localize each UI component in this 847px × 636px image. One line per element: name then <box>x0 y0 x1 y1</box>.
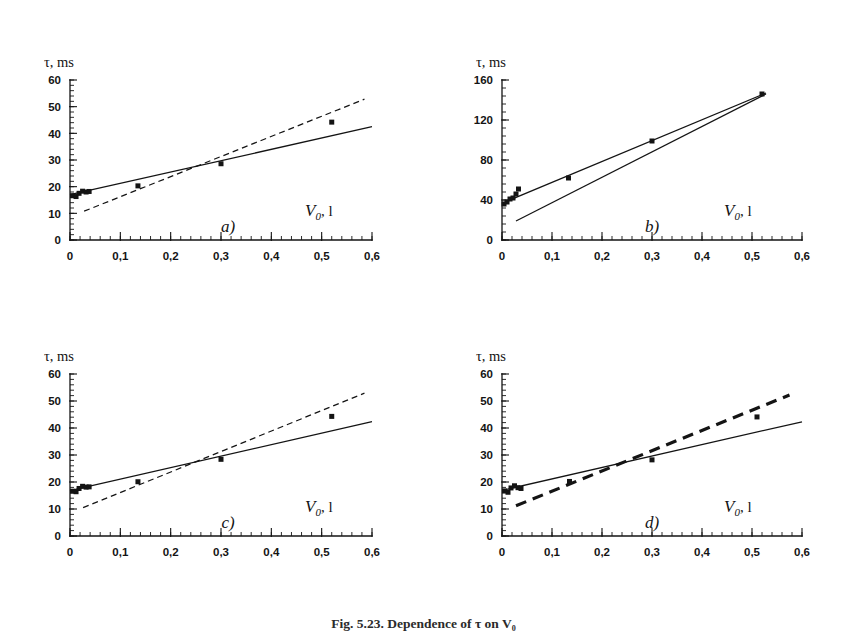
panel-a-y-tick-label: 20 <box>48 181 61 193</box>
panel-a-data-point <box>87 189 92 194</box>
panel-d-y-tick-label: 40 <box>480 422 493 434</box>
panel-b-data-point <box>566 176 571 181</box>
panel-b-data-point <box>516 187 521 192</box>
panel-a-x-tick-label: 0,1 <box>112 250 129 262</box>
panel-c-x-axis-label: V0, l <box>305 497 333 518</box>
panel-b-fit-line <box>505 93 766 202</box>
panel-b-x-tick-label: 0,4 <box>694 250 711 262</box>
panel-c-x-tick-label: 0,2 <box>163 546 179 558</box>
panel-b-container: τ, ms0408012016000,10,20,30,40,50,6b)V0,… <box>424 8 847 298</box>
panel-a-x-tick-label: 0,4 <box>263 250 280 262</box>
panel-c-container: τ, ms010203040506000,10,20,30,40,50,6c)V… <box>0 298 424 598</box>
panel-d-y-tick-label: 20 <box>480 476 493 488</box>
panel-b-y-tick-label: 0 <box>487 234 493 246</box>
panel-c-data-point <box>87 484 92 489</box>
panel-d-container: τ, ms010203040506000,10,20,30,40,50,6d)V… <box>424 298 847 598</box>
panel-d-x-tick-label: 0,5 <box>744 546 761 558</box>
panel-d-y-tick-label: 60 <box>480 368 493 380</box>
panel-c-letter: c) <box>221 513 235 532</box>
panel-c-y-tick-label: 30 <box>48 449 61 461</box>
panel-b-data-point <box>760 92 765 97</box>
panel-d-y-tick-label: 50 <box>480 395 493 407</box>
panel-b-axes <box>502 80 802 240</box>
panel-c-y-tick-label: 10 <box>48 503 61 515</box>
figure-root: τ, ms010203040506000,10,20,30,40,50,6a)V… <box>0 0 847 636</box>
panel-a-x-tick-label: 0,5 <box>314 250 331 262</box>
panel-d-y-tick-label: 10 <box>480 503 493 515</box>
panel-d-fit-line <box>502 422 802 491</box>
panel-c-x-tick-label: 0,3 <box>213 546 229 558</box>
panel-d-y-tick-label: 30 <box>480 449 493 461</box>
panel-a-x-tick-label: 0,2 <box>163 250 179 262</box>
panel-a-fit-line <box>84 99 364 211</box>
panel-d-x-tick-label: 0 <box>499 546 505 558</box>
panel-c-y-tick-label: 60 <box>48 368 61 380</box>
panel-d-x-tick-label: 0,4 <box>694 546 711 558</box>
panel-b-data-point <box>514 192 519 197</box>
panel-d-data-point <box>567 479 572 484</box>
figure-caption: Fig. 5.23. Dependence of τ on V₀ <box>0 616 847 632</box>
panel-c-data-point <box>219 457 224 462</box>
panel-d-plot: τ, ms010203040506000,10,20,30,40,50,6d)V… <box>424 298 847 598</box>
panel-b-y-tick-label: 80 <box>480 154 493 166</box>
panel-d-x-tick-label: 0,3 <box>644 546 660 558</box>
panel-c-fit-line <box>83 393 364 507</box>
panel-b-x-tick-label: 0,2 <box>594 250 610 262</box>
panel-a-y-tick-label: 40 <box>48 128 61 140</box>
panel-d-axes <box>502 374 802 536</box>
panel-c-data-point <box>329 414 334 419</box>
panel-c-x-tick-label: 0,5 <box>314 546 331 558</box>
panel-c-y-tick-label: 40 <box>48 422 61 434</box>
panel-a-data-point <box>329 120 334 125</box>
panel-d-data-point <box>755 414 760 419</box>
panel-a-x-tick-label: 0,6 <box>364 250 380 262</box>
panel-a-y-tick-label: 10 <box>48 208 61 220</box>
panel-b-x-tick-label: 0 <box>499 250 505 262</box>
panel-a-y-tick-label: 50 <box>48 101 61 113</box>
panel-c-plot: τ, ms010203040506000,10,20,30,40,50,6c)V… <box>0 298 424 598</box>
panel-b-x-tick-label: 0,5 <box>744 250 761 262</box>
panel-c-y-tick-label: 0 <box>55 530 61 542</box>
panel-a-letter: a) <box>221 217 236 236</box>
panel-d-data-point <box>506 490 511 495</box>
panel-a-container: τ, ms010203040506000,10,20,30,40,50,6a)V… <box>0 8 424 298</box>
panel-a-y-axis-label: τ, ms <box>44 54 74 70</box>
panel-b-y-tick-label: 120 <box>474 114 493 126</box>
panel-d-y-tick-label: 0 <box>487 530 493 542</box>
panel-d-fit-line <box>516 395 790 506</box>
panel-c-x-tick-label: 0,1 <box>112 546 129 558</box>
panel-b-x-tick-label: 0,1 <box>544 250 561 262</box>
panel-a-fit-line <box>70 127 372 195</box>
panel-d-x-axis-label: V0, l <box>724 497 752 518</box>
panel-c-y-axis-label: τ, ms <box>44 348 74 364</box>
panel-b-letter: b) <box>645 217 660 236</box>
panel-a-plot: τ, ms010203040506000,10,20,30,40,50,6a)V… <box>0 8 424 298</box>
panel-a-x-tick-label: 0 <box>67 250 73 262</box>
panel-a-y-tick-label: 30 <box>48 154 61 166</box>
panel-a-data-point <box>135 183 140 188</box>
panel-c-y-tick-label: 20 <box>48 476 61 488</box>
panel-c-x-tick-label: 0 <box>67 546 73 558</box>
panel-a-y-tick-label: 0 <box>55 234 61 246</box>
panel-a-data-point <box>219 161 224 166</box>
panel-c-x-tick-label: 0,4 <box>263 546 280 558</box>
panel-c-data-point <box>135 479 140 484</box>
panel-b-data-point <box>650 139 655 144</box>
panel-d-x-tick-label: 0,1 <box>544 546 561 558</box>
panel-d-letter: d) <box>645 513 660 532</box>
panel-a-x-tick-label: 0,3 <box>213 250 229 262</box>
panel-b-x-tick-label: 0,6 <box>794 250 810 262</box>
panel-b-x-tick-label: 0,3 <box>644 250 660 262</box>
panel-d-x-tick-label: 0,2 <box>594 546 610 558</box>
panel-a-y-tick-label: 60 <box>48 74 61 86</box>
panel-b-x-axis-label: V0, l <box>724 201 752 222</box>
panel-b-y-axis-label: τ, ms <box>476 54 506 70</box>
panel-c-fit-line <box>70 422 372 491</box>
panel-a-x-axis-label: V0, l <box>305 201 333 222</box>
panel-c-y-tick-label: 50 <box>48 395 61 407</box>
panel-d-x-tick-label: 0,6 <box>794 546 810 558</box>
panel-b-y-tick-label: 40 <box>480 194 493 206</box>
panel-d-data-point <box>650 457 655 462</box>
panel-d-data-point <box>519 486 524 491</box>
panel-b-y-tick-label: 160 <box>474 74 493 86</box>
